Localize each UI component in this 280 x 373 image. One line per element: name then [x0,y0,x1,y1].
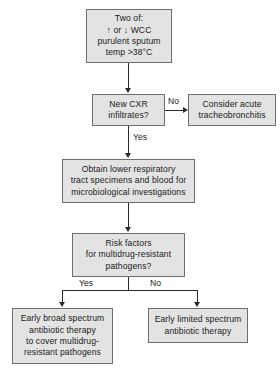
node-specimens-label: Obtain lower respiratory tract specimens… [71,164,187,198]
node-risk-decision-label: Risk factors for multidrug-resistant pat… [86,238,171,272]
edge-label-cxr-yes: Yes [131,132,149,142]
arrowhead-cxr-to-specimens-icon [125,153,131,158]
node-cxr-decision-label: New CXR infiltrates? [108,99,148,122]
edge-criteria-to-cxr [128,63,129,90]
edge-cxr-yes-vertical [128,126,129,155]
edge-risk-split-horizontal [62,290,198,291]
arrowhead-risk-to-broad-icon [59,302,65,307]
node-risk-decision: Risk factors for multidrug-resistant pat… [72,233,185,277]
edge-label-risk-yes: Yes [77,278,95,288]
node-tracheobronchitis: Consider acute tracheobronchitis [188,94,276,126]
edge-specimens-to-risk [128,203,129,229]
arrowhead-specimens-to-risk-icon [125,227,131,232]
node-broad-spectrum-label: Early broad spectrum antibiotic therapy … [21,313,105,359]
edge-risk-stem [128,277,129,290]
arrowhead-risk-to-limited-icon [194,302,200,307]
node-criteria-label: Two of: ↑ or ↓ WCC purulent sputum temp … [97,13,160,59]
node-criteria: Two of: ↑ or ↓ WCC purulent sputum temp … [86,9,172,63]
node-tracheobronchitis-label: Consider acute tracheobronchitis [198,99,265,122]
edge-cxr-no-horizontal [165,110,185,111]
node-specimens: Obtain lower respiratory tract specimens… [62,159,195,203]
node-limited-spectrum: Early limited spectrum antibiotic therap… [148,308,248,343]
edge-label-cxr-no: No [166,96,181,106]
node-cxr-decision: New CXR infiltrates? [92,94,165,126]
edge-label-risk-no: No [148,278,163,288]
node-limited-spectrum-label: Early limited spectrum antibiotic therap… [155,314,242,337]
flowchart-diagram: Two of: ↑ or ↓ WCC purulent sputum temp … [0,0,280,373]
arrowhead-criteria-to-cxr-icon [125,88,131,93]
node-broad-spectrum: Early broad spectrum antibiotic therapy … [12,308,113,364]
